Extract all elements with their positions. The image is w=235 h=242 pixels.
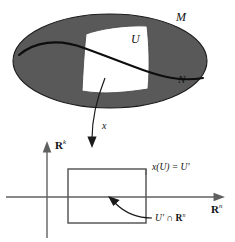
image-set-prime: ′ [187,162,189,172]
vertical-axis-exponent: k [63,138,66,145]
image-set-label: x(U) = U′ [152,163,190,173]
chart-map-arrowhead [87,137,96,148]
intersection-icon: ∩ [164,213,176,223]
chart-map-label: x [102,121,106,131]
submanifold-label: N [178,74,185,85]
boundary-set-label: U′ ∩ Rn [155,213,185,224]
vertical-axis-label: Rk [55,139,66,151]
figure-canvas [0,0,235,242]
image-set-expression: x(U) = U [152,162,187,172]
vertical-axis-symbol: R [55,139,63,151]
horizontal-axis-label: Rn [211,203,222,215]
boundary-set-symbol: U [155,213,162,223]
vertical-axis-arrowhead [43,141,52,153]
manifold-label: M [176,11,186,23]
boundary-set-exponent: n [182,212,185,218]
horizontal-axis-exponent: n [219,202,222,209]
chart-domain-label: U [131,33,140,45]
horizontal-axis-symbol: R [211,203,219,215]
manifold-chart-figure: M N U x Rk Rn x(U) = U′ U′ ∩ Rn [0,0,235,242]
horizontal-axis-arrowhead [214,193,226,202]
